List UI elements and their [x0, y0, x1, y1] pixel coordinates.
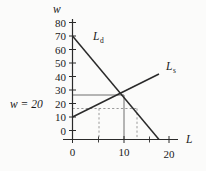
wage-floor-annotation: w = 20 [10, 98, 43, 110]
x-tick-label-10: 10 [119, 146, 131, 158]
demand-curve-label-sub: d [100, 36, 104, 45]
demand-curve-label-main: L [92, 30, 99, 42]
y-tick-label-40: 40 [55, 71, 67, 83]
y-tick-label-80: 80 [55, 17, 67, 29]
x-tick-label-20: 20 [164, 148, 176, 160]
y-tick-label-10: 10 [55, 111, 67, 123]
labor-market-chart: 80 70 60 50 40 30 20 10 0 0 10 20 w L L … [0, 0, 206, 171]
chart-figure: 80 70 60 50 40 30 20 10 0 0 10 20 w L L … [0, 0, 206, 171]
supply-curve-label-main: L [165, 60, 172, 72]
y-tick-label-30: 30 [55, 84, 67, 96]
x-tick-label-0: 0 [70, 146, 76, 158]
demand-curve-label: L d [92, 30, 104, 45]
x-axis [63, 136, 178, 143]
y-tick-label-70: 70 [55, 30, 67, 42]
y-tick-label-0: 0 [61, 125, 67, 137]
wage-20-guide-group [73, 109, 138, 140]
equilibrium-guide-group [73, 95, 125, 139]
y-tick-label-20: 20 [55, 98, 67, 110]
supply-curve-label-sub: s [173, 66, 176, 75]
y-tick-label-50: 50 [55, 57, 67, 69]
y-axis-label: w [53, 3, 61, 15]
supply-curve-label: L s [165, 60, 176, 75]
demand-curve-line [73, 36, 160, 140]
x-axis-label: L [185, 133, 192, 145]
y-tick-label-60: 60 [55, 44, 67, 56]
